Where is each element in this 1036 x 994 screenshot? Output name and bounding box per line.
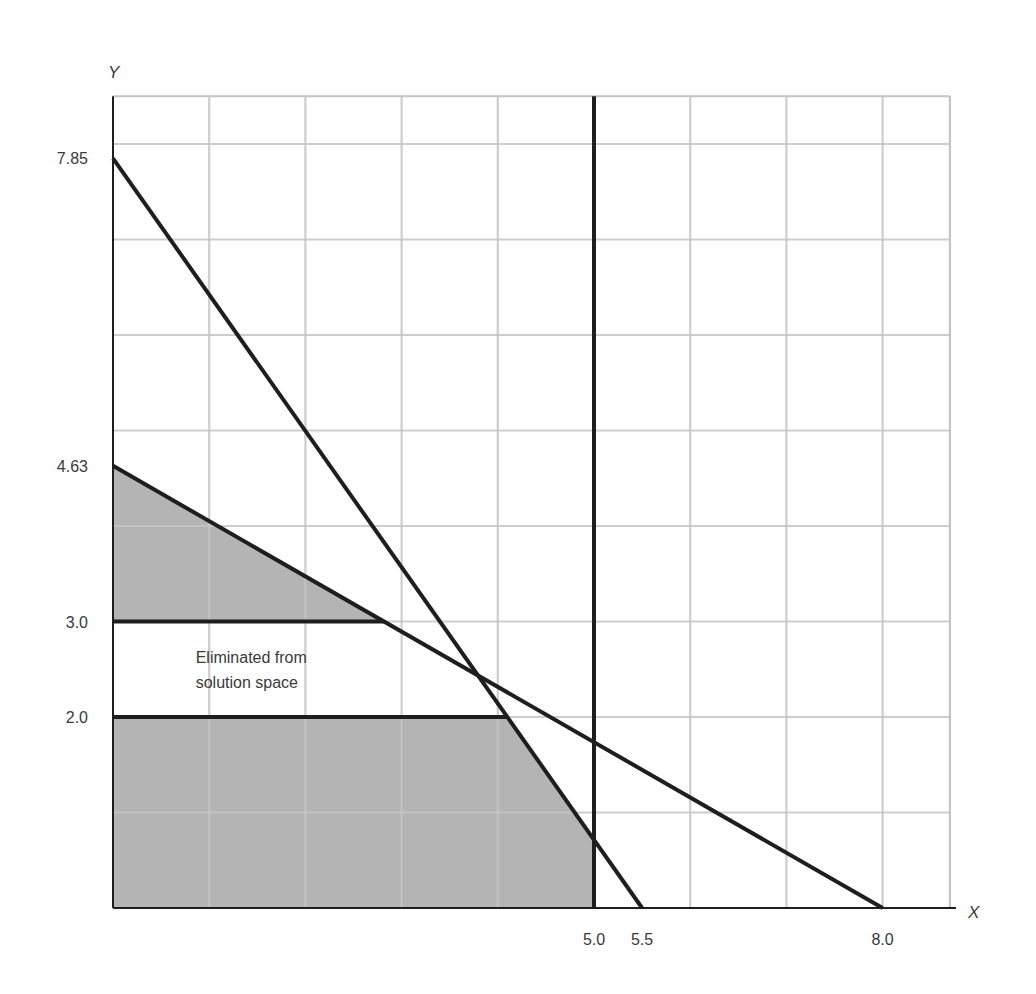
x-tick-label: 5.0 xyxy=(583,931,605,948)
shaded-feasible-regions xyxy=(113,466,594,908)
y-axis-label: Y xyxy=(108,63,121,82)
annotation-text-line: Eliminated from xyxy=(196,649,307,666)
x-axis-label: X xyxy=(967,903,980,922)
chart-canvas: 7.854.633.02.05.05.58.0 Y X Eliminated f… xyxy=(0,0,1036,994)
y-tick-label: 7.85 xyxy=(57,150,88,167)
annotation-text-line: solution space xyxy=(196,674,298,691)
y-tick-label: 2.0 xyxy=(66,709,88,726)
x-tick-label: 8.0 xyxy=(871,931,893,948)
y-tick-label: 3.0 xyxy=(66,614,88,631)
x-tick-label: 5.5 xyxy=(631,931,653,948)
annotation-eliminated: Eliminated fromsolution space xyxy=(196,649,307,691)
y-tick-label: 4.63 xyxy=(57,458,88,475)
